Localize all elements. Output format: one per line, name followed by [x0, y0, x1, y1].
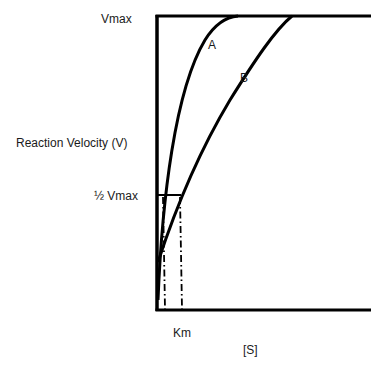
half-vmax-label: ½ Vmax: [94, 189, 138, 203]
curve-a-label: A: [208, 38, 216, 52]
km-label: Km: [173, 326, 191, 340]
km-line-b: [180, 197, 182, 309]
x-axis-label: [S]: [243, 343, 258, 357]
y-axis-label: Reaction Velocity (V): [16, 136, 127, 150]
diagram-canvas: [0, 0, 387, 372]
vmax-label: Vmax: [101, 12, 132, 26]
curve-b: [158, 16, 292, 262]
curve-b-label: B: [240, 71, 248, 85]
